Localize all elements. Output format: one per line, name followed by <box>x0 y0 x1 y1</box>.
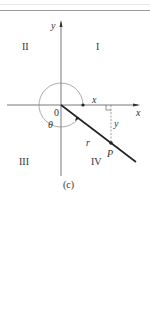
point-p-label: P <box>107 149 113 159</box>
x-axis-point <box>81 103 84 106</box>
radius-label: r <box>86 138 90 148</box>
quadrant-ii-label: II <box>22 42 29 52</box>
y-axis-arrow-icon <box>60 20 63 27</box>
y-axis-label: y <box>51 21 55 31</box>
x-axis-label: x <box>136 108 140 118</box>
quadrant-iv-label: IV <box>91 157 102 167</box>
quadrant-iii-label: III <box>19 157 29 167</box>
point-p <box>109 141 113 145</box>
quadrant-i-label: I <box>96 42 99 52</box>
horizontal-segment-label: x <box>92 95 96 105</box>
vertical-segment-label: y <box>114 119 118 129</box>
angle-theta-label: θ <box>48 120 53 130</box>
figure-caption: (c) <box>63 180 74 190</box>
origin-label: 0 <box>54 108 59 118</box>
terminal-ray <box>61 105 136 162</box>
right-angle-marker <box>106 105 111 110</box>
